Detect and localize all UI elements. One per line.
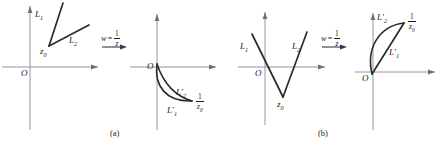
label-origin-source-a: O	[21, 69, 28, 78]
x-axis-arrow-icon	[318, 65, 325, 70]
y-axis-arrow-icon	[155, 14, 160, 21]
panel-a-arcs	[157, 64, 192, 101]
label-origin-image-a: O	[147, 62, 154, 71]
label-L1-source-b: L1	[240, 42, 248, 53]
x-axis-arrow-icon	[428, 70, 435, 75]
label-one-over-z0-image-a: 1 z0	[196, 93, 204, 113]
ray-L1	[252, 34, 283, 97]
label-z0-source-b: z0	[277, 100, 284, 111]
label-L2-prime-image-a: L′2	[176, 88, 186, 99]
label-L1-prime-image-b: L′1	[389, 48, 399, 59]
label-L2-source-a: L2	[69, 36, 77, 47]
caption-a: (a)	[110, 128, 119, 138]
y-axis-arrow-icon	[371, 13, 376, 20]
panel-a-source-axes	[2, 6, 98, 130]
label-origin-image-b: O	[362, 74, 369, 83]
label-z0-source-a: z0	[40, 47, 47, 58]
map-label-b: w = 1 z	[321, 30, 340, 47]
caption-b: (b)	[318, 128, 328, 138]
label-L2-source-b: L2	[292, 42, 300, 53]
y-axis-arrow-icon	[28, 6, 33, 13]
label-L1-source-a: L1	[35, 10, 43, 21]
x-axis-arrow-icon	[209, 65, 216, 70]
arc-L1-prime	[157, 64, 192, 101]
segment-L1-prime	[372, 23, 404, 74]
figure-root: L1 L2 z0 O O L′2 L′1 1 z0 w = 1 z	[0, 0, 437, 146]
label-origin-source-b: O	[255, 69, 262, 78]
x-axis-arrow-icon	[91, 65, 98, 70]
arc-L2-prime	[157, 64, 192, 101]
label-L1-prime-image-a: L′1	[167, 106, 177, 117]
panel-b-image-axes	[355, 13, 435, 130]
map-label-a: w = 1 z	[101, 30, 120, 47]
y-axis-arrow-icon	[263, 12, 268, 19]
figure-canvas	[0, 0, 437, 146]
label-one-over-z0-image-b: 1 z0	[408, 13, 416, 33]
label-L2-prime-image-b: L′2	[377, 13, 387, 24]
